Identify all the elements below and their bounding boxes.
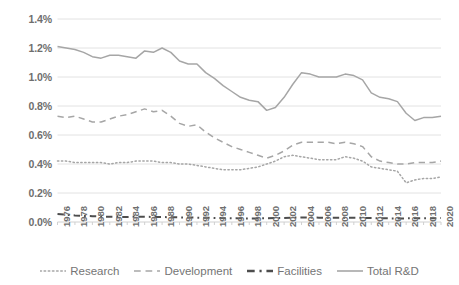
x-axis-tick-label: 1980 <box>96 206 105 227</box>
x-axis-tick-label: 2014 <box>393 206 402 227</box>
x-axis-tick-label: 2002 <box>288 206 297 227</box>
legend-label: Development <box>164 265 232 277</box>
x-axis-tick-label: 2008 <box>340 206 349 227</box>
legend-item-research[interactable]: Research <box>40 265 119 277</box>
x-axis-tick-label: 2012 <box>375 206 384 227</box>
x-axis-tick-label: 1996 <box>236 206 245 227</box>
x-axis-tick-label: 1990 <box>184 206 193 227</box>
legend-item-facilities[interactable]: Facilities <box>247 265 322 277</box>
x-axis-tick-label: 2020 <box>445 206 454 227</box>
chart-legend: ResearchDevelopmentFacilitiesTotal R&D <box>0 260 459 282</box>
x-axis-tick-label: 2000 <box>271 206 280 227</box>
x-axis-tick-label: 2018 <box>428 206 437 227</box>
x-axis-tick-label: 1992 <box>201 206 210 227</box>
x-axis-tick-label: 2016 <box>410 206 419 227</box>
x-axis-tick-label: 1998 <box>253 206 262 227</box>
solid-line-swatch <box>337 266 363 276</box>
x-axis-tick-label: 1988 <box>166 206 175 227</box>
legend-label: Research <box>70 265 119 277</box>
dotted-line-swatch <box>40 266 66 276</box>
x-axis-tick-label: 2006 <box>323 206 332 227</box>
x-axis-tick-label: 2010 <box>358 206 367 227</box>
x-axis-tick-label: 2004 <box>306 206 315 227</box>
x-axis-tick-label: 1994 <box>218 206 227 227</box>
x-axis-tick-label: 1986 <box>149 206 158 227</box>
dashed-line-swatch <box>134 266 160 276</box>
x-axis-tick-label: 1976 <box>62 206 71 227</box>
x-axis-tick-label: 1978 <box>79 206 88 227</box>
legend-label: Facilities <box>277 265 322 277</box>
x-axis-tick-labels: 1976197819801982198419861988199019921994… <box>0 0 459 285</box>
dashdot-line-swatch <box>247 266 273 276</box>
chart-container: 1.4%1.2%1.0%0.8%0.6%0.4%0.2%0.0% 1976197… <box>0 0 459 285</box>
legend-item-development[interactable]: Development <box>134 265 232 277</box>
legend-label: Total R&D <box>367 265 419 277</box>
legend-item-total-r-d[interactable]: Total R&D <box>337 265 419 277</box>
x-axis-tick-label: 1984 <box>131 206 140 227</box>
x-axis-tick-label: 1982 <box>114 206 123 227</box>
